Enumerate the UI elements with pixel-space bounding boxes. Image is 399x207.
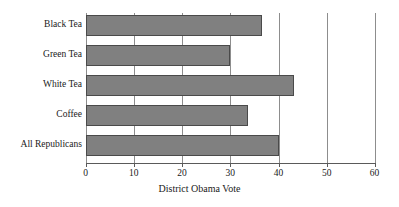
gridline-50	[327, 13, 328, 163]
category-label-black-tea: Black Tea	[44, 18, 82, 30]
bar-all-republicans	[86, 135, 279, 156]
tick-mark-0	[86, 163, 87, 167]
bar-white-tea	[86, 75, 294, 96]
tick-mark-40	[279, 163, 280, 167]
tick-label-60: 60	[360, 168, 390, 179]
x-axis-title: District Obama Vote	[0, 183, 399, 195]
bar-chart: Black Tea Green Tea White Tea Coffee All…	[0, 0, 399, 207]
category-label-white-tea: White Tea	[43, 78, 82, 90]
tick-mark-50	[327, 163, 328, 167]
plot-area	[86, 13, 376, 163]
gridline-60	[375, 13, 376, 163]
y-axis-category-labels: Black Tea Green Tea White Tea Coffee All…	[0, 13, 82, 163]
category-label-all-republicans: All Republicans	[21, 138, 82, 150]
tick-label-40: 40	[264, 168, 294, 179]
tick-mark-30	[230, 163, 231, 167]
tick-label-10: 10	[119, 168, 149, 179]
tick-label-20: 20	[167, 168, 197, 179]
bar-green-tea	[86, 45, 231, 66]
tick-mark-60	[375, 163, 376, 167]
tick-label-50: 50	[312, 168, 342, 179]
tick-mark-20	[182, 163, 183, 167]
category-label-green-tea: Green Tea	[43, 48, 82, 60]
category-label-coffee: Coffee	[56, 108, 82, 120]
bar-coffee	[86, 105, 248, 126]
bar-black-tea	[86, 15, 262, 36]
tick-label-30: 30	[215, 168, 245, 179]
tick-label-0: 0	[71, 168, 101, 179]
tick-mark-10	[134, 163, 135, 167]
